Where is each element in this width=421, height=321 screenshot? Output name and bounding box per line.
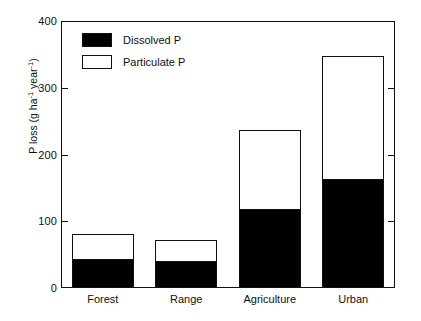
y-tick-label: 100 xyxy=(5,215,57,227)
legend-swatch-particulate-p xyxy=(82,55,112,69)
legend-item: Dissolved P xyxy=(82,32,185,47)
figure-stacked-bar-chart: 0100200300400 P loss (g ha-1 year-1) For… xyxy=(0,0,421,321)
y-axis-title: P loss (g ha-1 year-1) xyxy=(27,11,39,201)
x-tick-label: Forest xyxy=(87,293,118,305)
x-tick-label: Agriculture xyxy=(243,293,296,305)
bar-group xyxy=(239,130,301,288)
y-tick-label: 0 xyxy=(5,282,57,294)
x-tick-label: Urban xyxy=(338,293,368,305)
legend-item: Particulate P xyxy=(82,54,185,69)
bar-group xyxy=(322,56,384,288)
chart-legend: Dissolved PParticulate P xyxy=(82,32,185,76)
bar-group xyxy=(72,234,134,288)
bar-segment-dissolved xyxy=(155,261,217,288)
bar-segment-dissolved xyxy=(72,259,134,288)
legend-label: Dissolved P xyxy=(123,34,181,46)
legend-swatch-dissolved-p xyxy=(82,33,112,47)
bar-segment-dissolved xyxy=(322,179,384,288)
bar-segment-dissolved xyxy=(239,209,301,288)
x-axis-tick-labels: ForestRangeAgricultureUrban xyxy=(61,293,395,313)
legend-label: Particulate P xyxy=(123,56,185,68)
bar-group xyxy=(155,240,217,288)
x-tick-label: Range xyxy=(170,293,202,305)
